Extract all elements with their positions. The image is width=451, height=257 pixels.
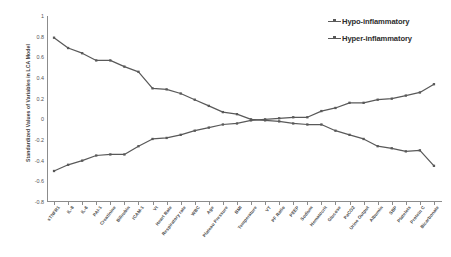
series-data-point — [377, 99, 379, 101]
series-data-point — [264, 119, 266, 121]
series-data-point — [95, 59, 97, 61]
series-data-point — [278, 120, 280, 122]
series-data-point — [348, 102, 350, 104]
y-axis-tick-label: 1 — [22, 13, 44, 19]
series-data-point — [151, 138, 153, 140]
legend-item-hypo-inflammatory[interactable]: Hypo-inflammatory — [328, 14, 448, 28]
series-data-point — [278, 117, 280, 119]
series-data-point — [320, 110, 322, 112]
series-data-point — [236, 122, 238, 124]
series-line — [54, 84, 434, 171]
legend-item-hyper-inflammatory[interactable]: Hyper-inflammatory — [328, 31, 448, 45]
series-data-point — [67, 164, 69, 166]
series-data-point — [334, 107, 336, 109]
lca-standardized-values-chart: Standardized Values of Variables in LCA … — [0, 0, 451, 257]
series-data-point — [348, 134, 350, 136]
series-data-point — [236, 113, 238, 115]
series-data-point — [67, 47, 69, 49]
series-data-point — [95, 154, 97, 156]
legend-label-hypo-inflammatory: Hypo-inflammatory — [342, 17, 410, 26]
legend-line-marker-icon — [328, 17, 341, 25]
series-data-point — [208, 105, 210, 107]
y-axis-tick-label: 0.8 — [22, 34, 44, 40]
series-data-point — [306, 116, 308, 118]
y-axis-tick-labels: 10.80.60.40.20-0.2-0.4-0.6-0.8 — [20, 16, 44, 201]
series-data-point — [180, 134, 182, 136]
series-data-point — [377, 145, 379, 147]
series-data-point — [180, 92, 182, 94]
series-data-point — [391, 147, 393, 149]
series-data-point — [137, 71, 139, 73]
series-data-point — [405, 94, 407, 96]
series-data-point — [405, 150, 407, 152]
y-axis-tick-label: 0.2 — [22, 96, 44, 102]
series-data-point — [320, 123, 322, 125]
series-data-point — [433, 165, 435, 167]
series-data-point — [362, 102, 364, 104]
y-axis-tick-label: -0.6 — [22, 178, 44, 184]
y-axis-tick-label: -0.2 — [22, 137, 44, 143]
series-data-point — [419, 149, 421, 151]
series-data-point — [123, 153, 125, 155]
series-data-point — [109, 153, 111, 155]
series-data-point — [306, 123, 308, 125]
y-axis-tick-label: -0.4 — [22, 158, 44, 164]
series-data-point — [419, 91, 421, 93]
series-data-point — [81, 52, 83, 54]
series-data-point — [292, 122, 294, 124]
series-data-point — [53, 37, 55, 39]
y-axis-tick-label: 0.6 — [22, 54, 44, 60]
chart-legend: Hypo-inflammatory Hyper-inflammatory — [328, 14, 448, 48]
y-axis-tick-label: -0.8 — [22, 199, 44, 205]
series-data-point — [165, 88, 167, 90]
series-data-point — [334, 130, 336, 132]
series-data-point — [151, 87, 153, 89]
series-data-point — [250, 118, 252, 120]
series-data-point — [433, 83, 435, 85]
series-data-point — [194, 99, 196, 101]
series-data-point — [165, 137, 167, 139]
series-data-point — [123, 65, 125, 67]
series-data-point — [81, 160, 83, 162]
x-axis-category-labels: sTNFR1IL-8IL-6PAI-1CreatinineBilirubinIC… — [47, 205, 442, 257]
series-data-point — [362, 138, 364, 140]
series-data-point — [137, 145, 139, 147]
series-data-point — [109, 59, 111, 61]
y-axis-tick-label: 0 — [22, 116, 44, 122]
series-data-point — [222, 123, 224, 125]
series-data-point — [292, 116, 294, 118]
series-data-point — [194, 130, 196, 132]
legend-label-hyper-inflammatory: Hyper-inflammatory — [342, 34, 412, 43]
legend-line-marker-icon — [328, 34, 341, 42]
series-data-point — [53, 170, 55, 172]
series-data-point — [391, 98, 393, 100]
y-axis-tick-label: 0.4 — [22, 75, 44, 81]
series-data-point — [222, 111, 224, 113]
series-data-point — [208, 126, 210, 128]
